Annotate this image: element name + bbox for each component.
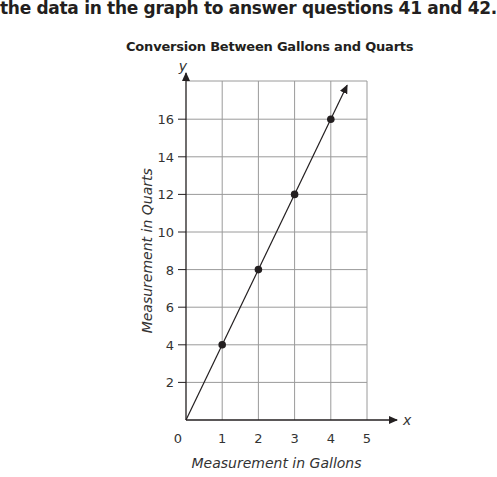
data-point xyxy=(255,266,263,274)
origin-label: 0 xyxy=(174,431,182,446)
y-tick-label: 16 xyxy=(157,112,174,127)
y-tick-label: 12 xyxy=(157,187,174,202)
y-axis-label: Measurement in Quarts xyxy=(139,168,155,333)
y-tick-label: 2 xyxy=(166,375,174,390)
x-axis-label: Measurement in Gallons xyxy=(191,455,361,471)
x-tick-label: 1 xyxy=(218,431,226,446)
y-tick-label: 6 xyxy=(166,300,174,315)
data-point xyxy=(218,341,226,349)
y-tick-label: 14 xyxy=(157,150,174,165)
x-tick-label: 4 xyxy=(327,431,335,446)
y-tick-label: 4 xyxy=(166,338,174,353)
y-tick-label: 8 xyxy=(166,263,174,278)
y-tick-label: 10 xyxy=(157,225,174,240)
data-point xyxy=(327,115,335,123)
x-tick-label: 5 xyxy=(363,431,371,446)
x-axis-name: x xyxy=(402,412,412,428)
x-tick-label: 2 xyxy=(254,431,262,446)
y-axis-name: y xyxy=(178,58,188,74)
data-point xyxy=(291,191,299,199)
x-tick-label: 3 xyxy=(290,431,298,446)
data-line xyxy=(186,85,347,420)
